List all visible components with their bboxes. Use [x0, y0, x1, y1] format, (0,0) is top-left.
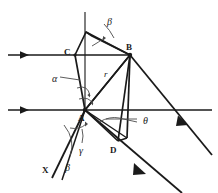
lower-horizontal-ray — [8, 106, 212, 114]
vertex-dot-B — [128, 53, 132, 57]
angle-arc-theta — [99, 118, 137, 123]
ray-diagram-figure: A B C D X β α r θ γ β — [0, 0, 218, 193]
exit-ray-from-B — [130, 55, 212, 155]
vertex-dot-C — [73, 53, 76, 56]
exit-ray-a-arrowhead-icon — [133, 163, 146, 175]
angle-label-alpha: α — [52, 74, 57, 84]
angle-label-beta-top: β — [107, 17, 112, 27]
vertex-dot-A — [83, 108, 87, 112]
angle-label-gamma: γ — [79, 146, 83, 156]
point-label-x: X — [42, 166, 49, 175]
point-label-d: D — [110, 146, 117, 155]
lower-ray-arrowhead-icon — [20, 106, 29, 114]
angle-arc-alpha — [77, 87, 90, 98]
upper-ray-arrowhead-icon — [20, 51, 29, 59]
leader-alpha — [60, 77, 80, 80]
angle-label-refraction-r: r — [104, 70, 108, 79]
angle-label-theta: θ — [143, 116, 148, 126]
point-label-c: C — [64, 48, 71, 57]
diagram-canvas — [0, 0, 218, 193]
exit-ray-from-A-lower — [85, 110, 182, 193]
angle-label-beta-bottom: β — [65, 163, 70, 173]
point-label-b: B — [126, 43, 132, 52]
angle-arc-gamma — [70, 122, 88, 144]
point-label-a: A — [78, 114, 85, 123]
